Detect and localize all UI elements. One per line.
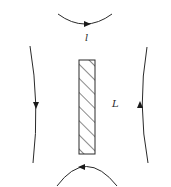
label-L: L [112,99,119,109]
top-field-arc [58,14,112,27]
arrow-down-icon [33,102,39,109]
bottom-field-arc [57,164,117,186]
label-l: l [85,33,88,43]
arrow-left-icon [78,164,85,170]
field-line-diagram [0,0,171,187]
left-field-line [30,46,39,163]
right-field-line [137,47,148,163]
arrow-right-icon [84,21,91,27]
hatched-rod [79,60,95,154]
